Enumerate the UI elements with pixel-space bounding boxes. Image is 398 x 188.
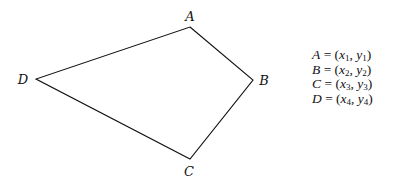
equation-d: D = (x4, y4): [312, 92, 373, 107]
eq-x-subscript: 1: [345, 53, 350, 63]
eq-lhs: A: [312, 47, 320, 62]
eq-lhs: D: [312, 91, 322, 106]
vertex-label-a: A: [184, 9, 194, 24]
coordinate-definitions: A = (x1, y1) B = (x2, y2) C = (x3, y3) D…: [312, 48, 373, 106]
eq-x-subscript: 4: [347, 97, 352, 107]
vertex-label-c: C: [184, 164, 194, 179]
vertex-label-b: B: [258, 73, 269, 88]
equation-a: A = (x1, y1): [312, 48, 373, 63]
eq-y-subscript: 4: [364, 97, 369, 107]
eq-lhs: C: [312, 76, 321, 91]
eq-lhs: B: [312, 62, 320, 77]
equation-c: C = (x3, y3): [312, 77, 373, 92]
equation-b: B = (x2, y2): [312, 63, 373, 78]
vertex-label-d: D: [17, 72, 29, 87]
quadrilateral-abcd: [36, 27, 253, 159]
